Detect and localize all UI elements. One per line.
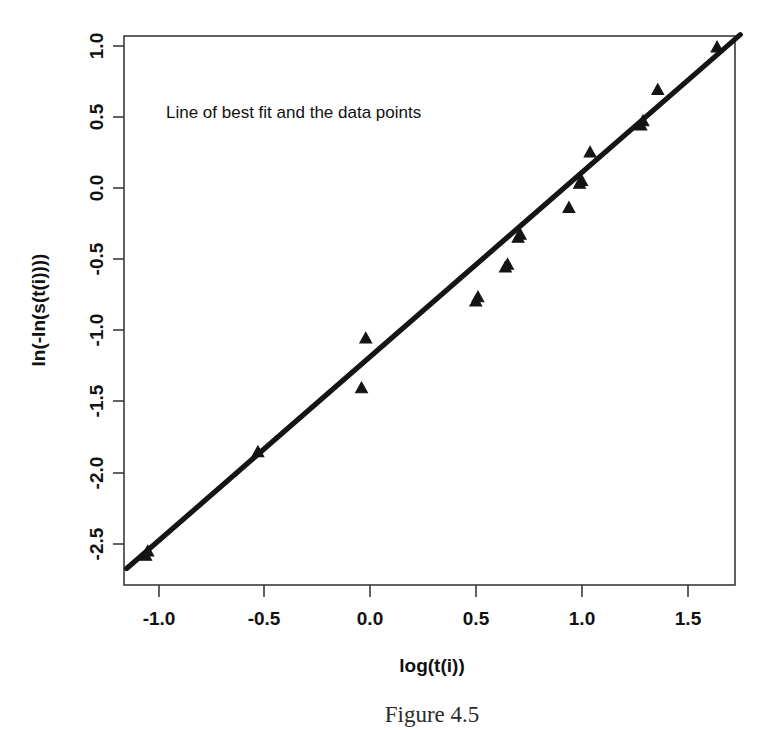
x-tick-label-1.0: 1.0	[569, 608, 595, 629]
y-tick-label-1.0: 1.0	[86, 33, 107, 59]
y-tick-label-0.5: 0.5	[86, 103, 107, 130]
y-tick-label--0.5: -0.5	[86, 242, 107, 275]
x-tick-label--1.0: -1.0	[143, 608, 176, 629]
y-tick-label--2.5: -2.5	[86, 527, 107, 560]
x-tick-label-0.0: 0.0	[357, 608, 383, 629]
y-tick-label--2.0: -2.0	[86, 457, 107, 490]
figure-caption: Figure 4.5	[385, 702, 480, 727]
y-tick-label--1.0: -1.0	[86, 314, 107, 347]
x-tick-label--0.5: -0.5	[248, 608, 281, 629]
y-axis-title: ln(-ln(s(t(i))))	[28, 254, 49, 367]
scatter-plot: 1.0 0.5 0.0 -0.5 -1.0 -1.5 -2.0 -2.5 ln(…	[0, 0, 769, 730]
x-tick-label-0.5: 0.5	[463, 608, 490, 629]
x-axis-title: log(t(i))	[399, 655, 464, 676]
figure-container: 1.0 0.5 0.0 -0.5 -1.0 -1.5 -2.0 -2.5 ln(…	[0, 0, 769, 730]
y-tick-label--1.5: -1.5	[86, 384, 107, 417]
y-tick-label-0.0: 0.0	[86, 175, 107, 201]
plot-annotation: Line of best fit and the data points	[166, 103, 421, 122]
x-tick-label-1.5: 1.5	[675, 608, 702, 629]
